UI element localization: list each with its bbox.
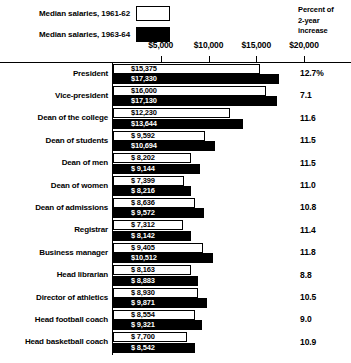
percent-increase-value: 11.5 [300,135,344,145]
category-label: Director of athletics [0,293,108,302]
bar-value-1961-62: $ 7,312 [131,220,155,230]
category-label: Business manager [0,248,108,257]
bar-value-1961-62: $12,230 [131,108,157,118]
percent-increase-value: 11.4 [300,225,344,235]
bar-1961-62 [113,243,203,253]
chart-row: Dean of students$ 9,592$10,69411.5 [0,130,351,152]
percent-increase-value: 11.6 [300,113,344,123]
percent-increase-value: 11.8 [300,247,344,257]
bar-value-1963-64: $ 8,142 [131,231,155,241]
bar-1963-64 [113,276,198,286]
bar-value-1961-62: $ 7,399 [131,176,155,186]
axis-tick-label: $5,000 [148,40,173,50]
percent-column-header: Percent of 2-year increase [298,5,351,37]
legend-label-1963-64: Median salaries, 1963-64 [8,30,136,40]
bar-value-1963-64: $13,644 [131,119,157,129]
percent-header-line3: increase [298,26,351,37]
chart-row: Vice-president$16,000$17,1307.1 [0,85,351,107]
percent-increase-value: 10.5 [300,292,344,302]
bar-1963-64 [113,164,200,174]
bar-value-1963-64: $ 8,542 [131,343,155,353]
category-label: Dean of the college [0,113,108,122]
percent-increase-value: 12.7% [300,68,344,78]
category-label: Registrar [0,225,108,234]
percent-increase-value: 10.8 [300,202,344,212]
percent-increase-value: 11.5 [300,158,344,168]
chart-row: Dean of the college$12,230$13,64411.6 [0,108,351,130]
chart-row: Head football coach$ 8,554$ 9,3219.0 [0,309,351,331]
bar-value-1961-62: $ 8,554 [131,310,155,320]
percent-header-line1: Percent of [298,5,351,16]
percent-increase-value: 11.0 [300,180,344,190]
bar-value-1963-64: $ 9,321 [131,320,155,330]
bar-value-1963-64: $17,130 [131,96,157,106]
percent-increase-value: 9.0 [300,314,344,324]
chart-row: Dean of men$ 8,202$ 9,14411.5 [0,153,351,175]
bar-value-1963-64: $10,512 [131,253,157,263]
bar-1963-64 [113,298,207,308]
bar-1961-62 [113,288,198,298]
chart-row: Business manager$ 9,405$10,51211.8 [0,242,351,264]
bar-1963-64 [113,320,202,330]
bar-value-1961-62: $16,000 [131,86,157,96]
percent-increase-value: 8.8 [300,270,344,280]
category-label: Dean of men [0,158,108,167]
category-label: Dean of admissions [0,203,108,212]
percent-increase-value: 7.1 [300,90,344,100]
category-label: President [0,69,108,78]
bar-value-1961-62: $ 7,700 [131,332,155,342]
bar-value-1961-62: $ 9,592 [131,131,155,141]
bar-1963-64 [113,253,213,263]
bar-value-1963-64: $17,330 [131,74,157,84]
category-label: Head football coach [0,315,108,324]
legend-item-1961-62: Median salaries, 1961-62 [8,6,170,21]
axis-tick-label: $20,000 [289,40,318,50]
category-label: Dean of women [0,181,108,190]
bar-value-1963-64: $10,694 [131,141,157,151]
chart-row: President$15,375$17,33012.7% [0,63,351,85]
chart-row: Director of athletics$ 8,930$ 9,87110.5 [0,287,351,309]
chart-row: Dean of admissions$ 8,636$ 9,57210.8 [0,197,351,219]
legend-swatch-white [136,6,170,21]
chart-row: Head basketball coach$ 7,700$ 8,54210.9 [0,332,351,354]
bar-value-1961-62: $ 9,405 [131,243,155,253]
chart-plot-area: President$15,375$17,33012.7%Vice-preside… [0,63,351,359]
bar-value-1963-64: $ 9,572 [131,208,155,218]
bar-value-1963-64: $ 8,883 [131,276,155,286]
bar-1961-62 [113,131,205,141]
legend-label-1961-62: Median salaries, 1961-62 [8,9,136,19]
bar-value-1963-64: $ 9,144 [131,164,155,174]
bar-value-1961-62: $ 8,202 [131,153,155,163]
bar-value-1963-64: $ 9,871 [131,298,155,308]
category-label: Vice-president [0,91,108,100]
percent-increase-value: 10.9 [300,337,344,347]
bar-value-1961-62: $ 8,636 [131,198,155,208]
chart-row: Dean of women$ 7,399$ 8,21611.0 [0,175,351,197]
chart-row: Head librarian$ 8,163$ 8,8838.8 [0,265,351,287]
category-label: Dean of students [0,136,108,145]
chart-row: Registrar$ 7,312$ 8,14211.4 [0,220,351,242]
category-label: Head basketball coach [0,337,108,346]
percent-header-line2: 2-year [298,16,351,27]
axis-tick-label: $15,000 [242,40,271,50]
category-label: Head librarian [0,270,108,279]
bar-1963-64 [113,141,215,151]
bar-1963-64 [113,208,204,218]
axis-tick-label: $10,000 [194,40,223,50]
bar-value-1961-62: $ 8,930 [131,288,155,298]
bar-value-1961-62: $ 8,163 [131,265,155,275]
bar-value-1961-62: $15,375 [131,64,157,74]
bar-value-1963-64: $ 8,216 [131,186,155,196]
